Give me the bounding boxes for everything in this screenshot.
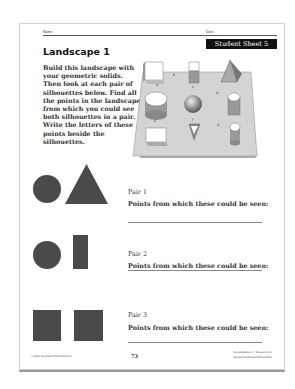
pair-3-answer-line[interactable]: [128, 342, 262, 343]
student-sheet-badge: Student Sheet 5: [206, 39, 277, 49]
landscape-illustration: A B C D E F G: [129, 54, 259, 158]
silhouette-square: [74, 310, 103, 341]
date-line: [183, 35, 277, 36]
pair-1-title: Pair 1: [128, 188, 147, 196]
instructions-text: Build this landscape with your geometric…: [43, 64, 143, 146]
silhouette-circle: [33, 241, 61, 269]
silhouette-circle: [33, 175, 61, 203]
silhouette-tall-rectangle: [73, 235, 88, 269]
unit-title: Seeing Solids and Silhouettes: [234, 356, 272, 359]
pair-3-prompt: Points from which these could be seen:: [128, 324, 268, 332]
page-title: Landscape 1: [43, 46, 110, 57]
pair-1-answer-line[interactable]: [128, 222, 262, 223]
pair-1-prompt: Points from which these could be seen:: [128, 200, 268, 208]
investigation-text: Investigation 2 • Sessions 1-2: [233, 351, 272, 354]
pair-2-answer-line[interactable]: [128, 270, 262, 271]
silhouette-triangle: [65, 164, 108, 204]
name-label: Name: [43, 30, 52, 34]
date-label: Date: [206, 30, 213, 34]
page-number: 73: [131, 353, 138, 359]
svg-text:F: F: [192, 118, 194, 122]
pair-2-title: Pair 2: [128, 250, 147, 258]
copyright-text: © Dale Seymour Publications®: [31, 355, 72, 358]
pair-3-title: Pair 3: [128, 311, 147, 319]
svg-text:B: B: [173, 73, 175, 77]
silhouette-square: [33, 310, 61, 341]
svg-text:E: E: [154, 119, 156, 123]
name-line: [43, 35, 183, 36]
worksheet-page: Name Date Student Sheet 5 Landscape 1 Bu…: [19, 23, 285, 370]
pair-2-prompt: Points from which these could be seen:: [128, 262, 268, 270]
